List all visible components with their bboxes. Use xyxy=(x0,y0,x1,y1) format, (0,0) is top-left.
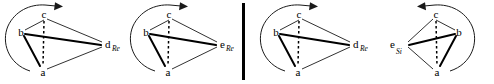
panel-3: c b a d Re xyxy=(260,2,368,78)
panel-2-edge-bd xyxy=(150,34,216,45)
panel-4-edge-ba xyxy=(440,36,456,66)
panel-1-label-a: a xyxy=(41,66,46,78)
panel-3-label-b: b xyxy=(273,26,279,38)
panel-4-edge-cd xyxy=(408,19,433,42)
panel-4-label-e-subscript: Si xyxy=(396,47,402,56)
panel-2-label-e-subscript: Re xyxy=(225,44,235,53)
panel-2-edge-ba xyxy=(149,36,165,66)
stereochemistry-figure: c b a d Re c b a e Re xyxy=(0,0,494,84)
panel-1-edge-ad xyxy=(47,47,102,69)
panel-3-edge-ad xyxy=(302,47,350,69)
panel-1-edge-cb xyxy=(25,20,44,30)
panel-1-label-d-subscript: Re xyxy=(111,44,121,53)
panel-4-rotation-arrow xyxy=(424,5,475,71)
panel-2-label-c: c xyxy=(167,8,172,20)
panel-2-edge-ad xyxy=(172,47,217,69)
panel-4-edge-ca xyxy=(436,21,437,66)
panel-3-edge-bd xyxy=(280,34,349,45)
panel-4: c b a e Si xyxy=(390,2,475,78)
panel-4-label-e: e xyxy=(390,38,395,50)
panel-1-label-c: c xyxy=(42,8,47,20)
panel-1: c b a d Re xyxy=(5,2,120,78)
panel-divider xyxy=(242,3,245,80)
panel-3-edge-ca xyxy=(298,21,299,66)
panel-2: c b a e Re xyxy=(130,2,234,78)
panel-2-edge-cb xyxy=(150,20,169,30)
panel-3-edge-cb xyxy=(280,20,299,30)
panel-4-arrowhead xyxy=(417,2,426,10)
panel-2-arrowhead xyxy=(179,2,188,10)
figure-canvas: c b a d Re c b a e Re xyxy=(0,0,494,84)
panel-2-label-b: b xyxy=(143,26,149,38)
panel-4-label-a: a xyxy=(435,66,440,78)
panel-1-edge-ba xyxy=(24,36,40,66)
panel-4-edge-cb xyxy=(436,20,455,30)
panel-1-edge-ca xyxy=(43,21,44,66)
panel-4-edge-ad xyxy=(408,47,433,69)
panel-4-label-c: c xyxy=(434,8,439,20)
panel-1-label-b: b xyxy=(18,26,24,38)
panel-2-label-a: a xyxy=(166,66,171,78)
panel-4-label-b: b xyxy=(456,26,462,38)
panel-3-label-d-subscript: Re xyxy=(359,44,369,53)
panel-1-edge-bd xyxy=(25,34,101,45)
panel-4-edge-bd xyxy=(409,34,455,45)
panel-3-label-c: c xyxy=(297,8,302,20)
panel-1-arrowhead xyxy=(54,2,63,10)
panel-2-label-e: e xyxy=(220,38,225,50)
panel-3-label-d: d xyxy=(353,38,359,50)
panel-3-label-a: a xyxy=(296,66,301,78)
panel-1-label-d: d xyxy=(105,38,111,50)
panel-3-arrowhead xyxy=(309,2,318,10)
panel-3-edge-ba xyxy=(279,36,295,66)
panel-2-edge-ca xyxy=(168,21,169,66)
